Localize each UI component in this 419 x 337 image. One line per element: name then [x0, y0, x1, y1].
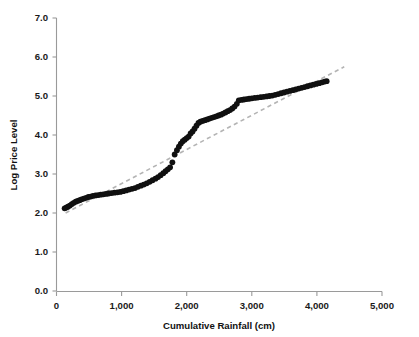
x-axis-title: Cumulative Rainfall (cm) — [163, 320, 275, 331]
y-tick-label: 2.0 — [35, 207, 48, 218]
y-tick-label: 5.0 — [35, 90, 48, 101]
y-tick-label: 7.0 — [35, 12, 48, 23]
y-axis-title: Log Price Level — [8, 120, 19, 191]
x-tick-label: 3,000 — [240, 300, 264, 311]
data-point — [167, 164, 173, 170]
x-tick-label: 1,000 — [110, 300, 134, 311]
scatter-chart: 0.01.02.03.04.05.06.07.0 01,0002,0003,00… — [0, 0, 419, 337]
x-tick-label: 5,000 — [370, 300, 394, 311]
y-tick-label: 1.0 — [35, 246, 48, 257]
y-tick-label: 6.0 — [35, 51, 48, 62]
data-point — [324, 78, 330, 84]
y-tick-label: 3.0 — [35, 168, 48, 179]
y-tick-label: 0.0 — [35, 285, 48, 296]
x-tick-label: 2,000 — [175, 300, 199, 311]
x-tick-label: 0 — [54, 300, 59, 311]
data-point — [169, 159, 175, 165]
chart-background — [0, 0, 419, 337]
chart-figure: 0.01.02.03.04.05.06.07.0 01,0002,0003,00… — [0, 0, 419, 337]
x-tick-label: 4,000 — [305, 300, 329, 311]
y-tick-label: 4.0 — [35, 129, 48, 140]
